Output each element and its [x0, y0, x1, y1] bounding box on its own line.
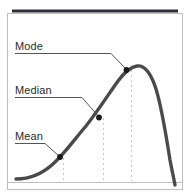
label-median: Median — [15, 84, 52, 96]
marker-dot-mode — [124, 67, 130, 73]
distribution-chart-svg: Mode Median Mean — [0, 0, 190, 196]
distribution-figure: Mode Median Mean — [0, 0, 190, 196]
leader-line-mode — [15, 54, 126, 70]
marker-dot-mean — [57, 154, 63, 160]
leader-line-mean — [15, 144, 60, 158]
marker-dot-median — [96, 115, 102, 121]
label-mode: Mode — [15, 40, 43, 52]
leader-line-median — [15, 98, 99, 118]
label-mean: Mean — [15, 130, 43, 142]
droplines-group — [64, 70, 132, 181]
